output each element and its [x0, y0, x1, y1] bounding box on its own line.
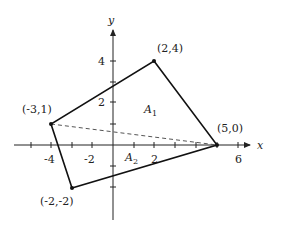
vertex-point — [49, 122, 53, 126]
y-tick-label: 4 — [98, 55, 105, 68]
vertex-label: (2,4) — [157, 42, 183, 55]
vertex-label: (5,0) — [217, 122, 243, 135]
x-tick-label: -2 — [84, 153, 95, 166]
region-label-a1: A1 — [143, 103, 157, 118]
x-axis-label: x — [257, 139, 264, 152]
vertex-label: (-2,-2) — [40, 195, 74, 208]
vertex-point — [152, 59, 156, 63]
vertex-point — [215, 143, 219, 147]
x-tick-label: -4 — [44, 153, 55, 166]
vertex-point — [70, 186, 74, 190]
coordinate-diagram: x y -4 -2 2 6 4 2 (2,4) (5,0) (-2,-2) (-… — [0, 0, 284, 228]
region-label-a2: A2 — [124, 151, 138, 166]
diagonal-dashed — [51, 124, 217, 145]
x-tick-label: 6 — [235, 153, 242, 166]
quadrilateral — [51, 61, 217, 188]
vertex-label: (-3,1) — [22, 103, 52, 116]
y-axis-label: y — [107, 14, 115, 27]
y-tick-label: 2 — [98, 96, 105, 109]
